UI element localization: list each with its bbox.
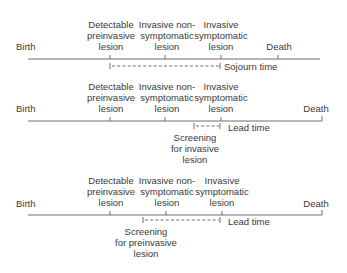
sojourn-time-label: Sojourn time	[224, 61, 277, 72]
event-invasive-nonsymptomatic-label: Invasive non- symptomatic lesion	[139, 81, 196, 114]
event-invasive-symptomatic-label: Invasive symptomatic lesion	[195, 175, 248, 208]
event-detectable-preinvasive-label: Detectable preinvasive lesion	[87, 81, 135, 114]
death-label: Death	[266, 41, 291, 52]
timeline-lead-invasive	[28, 116, 322, 129]
death-label: Death	[303, 103, 328, 114]
birth-label: Birth	[16, 198, 36, 209]
birth-label: Birth	[16, 41, 36, 52]
event-detectable-preinvasive-label: Detectable preinvasive lesion	[87, 19, 135, 52]
event-invasive-nonsymptomatic-label: Invasive non- symptomatic lesion	[139, 175, 196, 208]
lead-time-label: Lead time	[228, 216, 270, 227]
death-label: Death	[303, 198, 328, 209]
screening-invasive-label: Screening for invasive lesion	[171, 132, 219, 165]
event-detectable-preinvasive-label: Detectable preinvasive lesion	[87, 175, 135, 208]
timeline-lead-preinvasive	[28, 210, 322, 223]
event-invasive-nonsymptomatic-label: Invasive non- symptomatic lesion	[139, 19, 196, 52]
event-invasive-symptomatic-label: Invasive symptomatic lesion	[194, 81, 247, 114]
screening-preinvasive-label: Screening for preinvasive lesion	[115, 226, 177, 259]
event-invasive-symptomatic-label: Invasive symptomatic lesion	[194, 19, 247, 52]
lead-time-label: Lead time	[228, 122, 270, 133]
birth-label: Birth	[16, 103, 36, 114]
